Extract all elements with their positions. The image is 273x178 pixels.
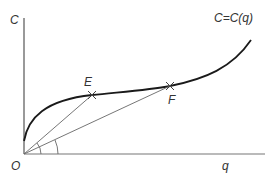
cost-curve-diagram: C q O C=C(q) E F bbox=[0, 0, 273, 178]
curve-label: C=C(q) bbox=[214, 11, 253, 25]
origin-label: O bbox=[11, 159, 20, 173]
ray-origin-to-f bbox=[24, 86, 170, 154]
cost-curve bbox=[24, 40, 251, 141]
ray-origin-to-e bbox=[24, 95, 92, 154]
angle-arc-f bbox=[55, 140, 58, 154]
point-f-label: F bbox=[168, 93, 176, 107]
x-axis-label: q bbox=[222, 159, 229, 173]
angle-arc-e bbox=[37, 143, 41, 154]
y-axis-label: C bbox=[10, 13, 19, 27]
point-e-label: E bbox=[84, 75, 93, 89]
